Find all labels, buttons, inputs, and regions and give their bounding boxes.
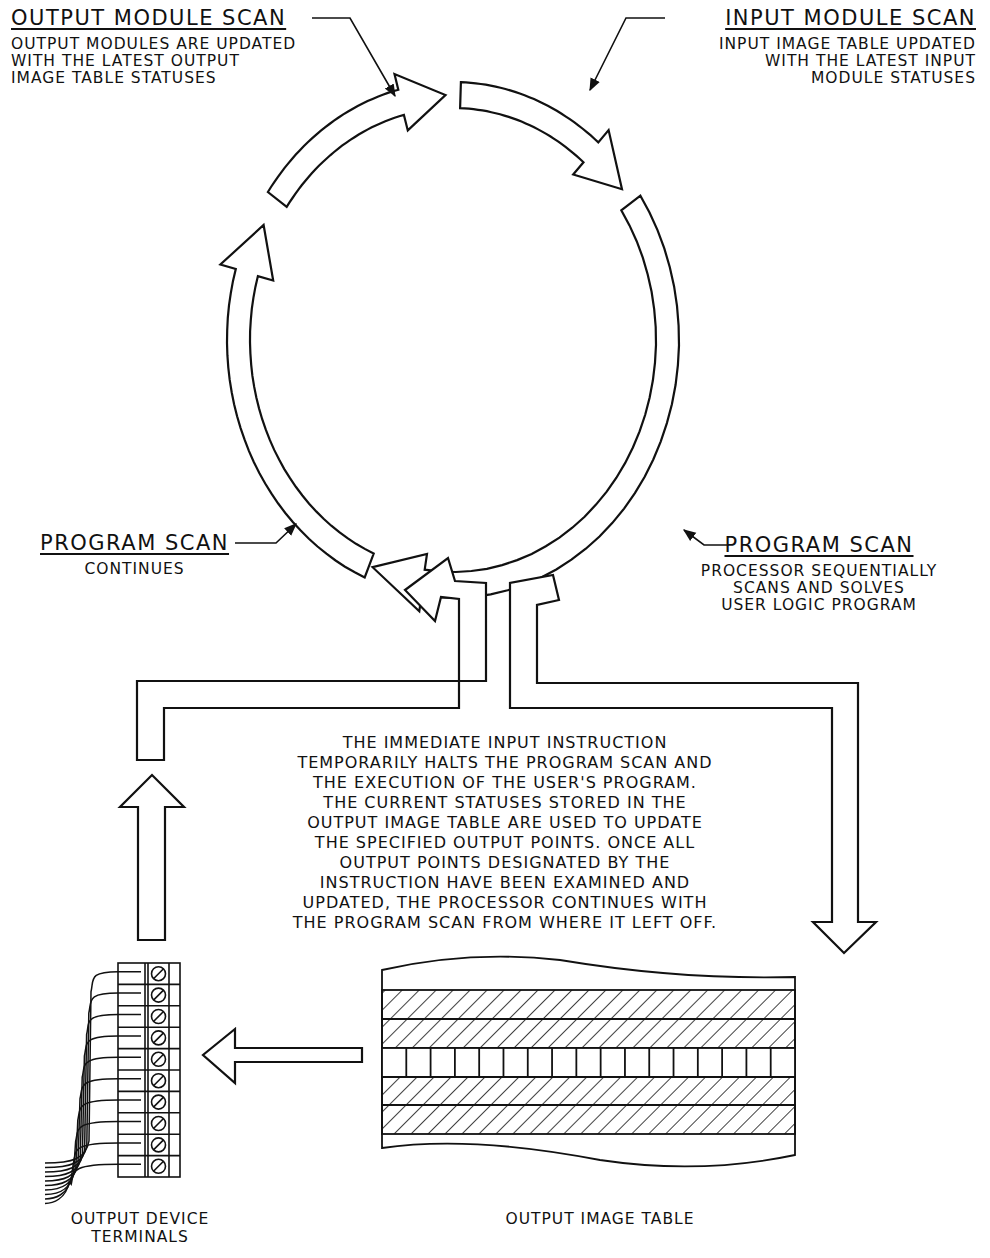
program-scan-right-line: SCANS AND SOLVES (678, 580, 960, 597)
arrow-program-scan (373, 196, 679, 612)
description-line: UPDATED, THE PROCESSOR CONTINUES WITH (240, 893, 770, 913)
input-module-scan-line: MODULE STATUSES (719, 70, 976, 87)
output-module-scan-title: OUTPUT MODULE SCAN (11, 6, 296, 30)
description-line: THE IMMEDIATE INPUT INSTRUCTION (240, 733, 770, 753)
arrow-output-module-scan (268, 74, 446, 207)
left-arrow (203, 1029, 362, 1083)
description-line: THE CURRENT STATUSES STORED IN THE (240, 793, 770, 813)
left-return-path (137, 558, 486, 760)
program-scan-right-title: PROGRAM SCAN (724, 533, 913, 557)
description-line: TEMPORARILY HALTS THE PROGRAM SCAN AND (240, 753, 770, 773)
description-line: THE EXECUTION OF THE USER'S PROGRAM. (240, 773, 770, 793)
program-scan-right-line: USER LOGIC PROGRAM (678, 597, 960, 614)
program-scan-right-line: PROCESSOR SEQUENTIALLY (678, 563, 960, 580)
input-module-scan-line: WITH THE LATEST INPUT (719, 53, 976, 70)
caption-terminals-line: OUTPUT DEVICE (50, 1210, 230, 1228)
output-device-terminal-block (45, 963, 180, 1204)
input-module-scan-line: INPUT IMAGE TABLE UPDATED (719, 36, 976, 53)
program-scan-left-title: PROGRAM SCAN (40, 531, 229, 555)
program-scan-left-line: CONTINUES (40, 561, 229, 578)
description-line: THE SPECIFIED OUTPUT POINTS. ONCE ALL (240, 833, 770, 853)
label-input-module-scan: INPUT MODULE SCAN INPUT IMAGE TABLE UPDA… (719, 6, 976, 87)
description-line: OUTPUT IMAGE TABLE ARE USED TO UPDATE (240, 813, 770, 833)
caption-output-image-table: OUTPUT IMAGE TABLE (500, 1210, 700, 1228)
label-program-scan-continues: PROGRAM SCAN CONTINUES (40, 531, 229, 578)
description-line: INSTRUCTION HAVE BEEN EXAMINED AND (240, 873, 770, 893)
scan-cycle-diagram (0, 0, 990, 1258)
output-module-scan-line: IMAGE TABLE STATUSES (11, 70, 296, 87)
output-module-scan-line: WITH THE LATEST OUTPUT (11, 53, 296, 70)
arrow-program-scan-continues (220, 225, 373, 578)
label-output-module-scan: OUTPUT MODULE SCAN OUTPUT MODULES ARE UP… (11, 6, 296, 87)
leader-output-module-scan (312, 18, 395, 96)
arrow-input-module-scan (460, 82, 622, 189)
input-module-scan-title: INPUT MODULE SCAN (719, 6, 976, 30)
up-arrow (120, 775, 184, 940)
caption-terminals-line: TERMINALS (50, 1228, 230, 1246)
output-image-table (382, 957, 795, 1167)
description-line: THE PROGRAM SCAN FROM WHERE IT LEFT OFF. (240, 913, 770, 933)
description-line: OUTPUT POINTS DESIGNATED BY THE (240, 853, 770, 873)
output-module-scan-line: OUTPUT MODULES ARE UPDATED (11, 36, 296, 53)
leader-input-module-scan (590, 18, 665, 90)
label-program-scan-processor: PROGRAM SCAN PROCESSOR SEQUENTIALLY SCAN… (678, 533, 960, 614)
immediate-input-description: THE IMMEDIATE INPUT INSTRUCTION TEMPORAR… (240, 733, 770, 933)
caption-output-device-terminals: OUTPUT DEVICE TERMINALS (50, 1210, 230, 1246)
leader-program-scan-left (235, 524, 296, 543)
